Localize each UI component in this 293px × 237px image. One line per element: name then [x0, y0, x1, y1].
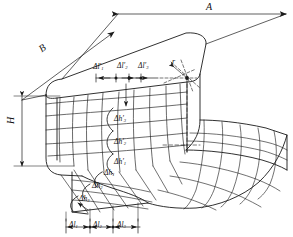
bottom-brace-arrow: [78, 203, 88, 210]
label-r: r: [172, 58, 175, 66]
curved-sheet-outline: [148, 120, 287, 208]
diagram-svg: [0, 0, 293, 237]
label-delta-h3-prime: Δh′3: [114, 115, 126, 124]
label-delta-l2-prime: Δl′2: [117, 62, 127, 71]
front-right-edge: [186, 74, 200, 152]
label-delta-l1-prime: Δl′1: [93, 63, 103, 72]
bottom-face-outline: [72, 172, 148, 214]
label-delta-h1: Δh1: [104, 169, 114, 178]
label-delta-h1-prime: Δh′1: [114, 158, 126, 167]
label-delta-l3-prime: Δl′3: [138, 62, 148, 71]
figure-canvas: A B H r Δl′1 Δl′2 Δl′3 Δh′3 Δh′2 Δh′1 Δh…: [0, 0, 293, 237]
curved-sheet-grid: [158, 120, 287, 210]
label-delta-l1: Δl1: [69, 221, 78, 230]
label-delta-h2: Δh2: [92, 182, 102, 191]
label-A: A: [206, 2, 212, 12]
front-vertical-braces: [107, 108, 113, 174]
dimension-line-H: [14, 96, 74, 166]
label-H: H: [6, 117, 16, 124]
bottom-face-grid: [61, 161, 182, 213]
label-delta-l3: Δl3: [117, 221, 126, 230]
label-delta-h3: Δh3: [79, 195, 89, 204]
label-delta-h2-prime: Δh′2: [114, 138, 126, 147]
front-face-outline: [46, 95, 82, 176]
label-delta-l2: Δl2: [93, 221, 102, 230]
